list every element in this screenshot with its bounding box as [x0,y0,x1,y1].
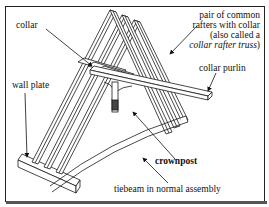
label-crownpost: crownpost [155,156,197,167]
label-pair-italic: collar rafter truss [189,40,257,50]
crownpost-arrow [133,112,175,159]
collar-purlin-arrow [208,73,216,91]
collar-arrow [46,29,92,66]
label-pair-line4: collar rafter truss) [189,40,260,51]
label-collar: collar [16,20,38,31]
label-collar-purlin: collar purlin [199,63,246,74]
label-pair-line2: rafters with collar [192,20,260,31]
crownpost-shape [112,82,118,112]
label-pair-line1: pair of common [199,10,260,21]
label-wall-plate: wall plate [12,80,49,91]
wall-plate-arrow [25,93,27,157]
label-pair-line3: (also called a [210,30,260,41]
label-tiebeam: tiebeam in normal assembly [114,184,221,195]
label-pair-close: ) [257,40,260,50]
